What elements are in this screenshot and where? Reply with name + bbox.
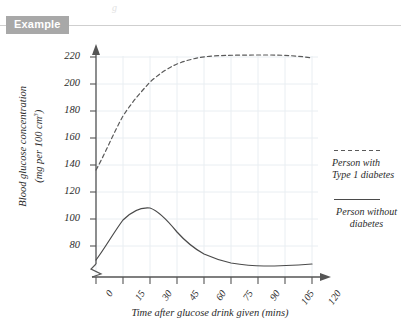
- y-tick-label-80: 80: [52, 239, 80, 250]
- y-axis-title-superscript: 3: [31, 113, 39, 117]
- legend-label-line2: Type 1 diabetes: [332, 169, 401, 181]
- legend-swatch-dashed: [334, 146, 382, 155]
- y-tick-label-220: 220: [52, 50, 80, 61]
- y-tick-label-200: 200: [52, 77, 80, 88]
- example-chart-page: g Example: [0, 0, 401, 331]
- y-tick-label-180: 180: [52, 104, 80, 115]
- y-axis-title: Blood glucose concentration (mg per 100 …: [17, 51, 46, 241]
- y-tick-label-160: 160: [52, 131, 80, 142]
- legend-label-no-diabetes: Person without diabetes: [332, 206, 401, 230]
- legend-swatch-solid: [334, 195, 382, 204]
- y-tick-label-140: 140: [52, 158, 80, 169]
- legend-entry-type1-diabetes: Person with Type 1 diabetes: [332, 146, 401, 181]
- x-axis-title: Time after glucose drink given (mins): [80, 307, 340, 318]
- y-tick-label-120: 120: [52, 185, 80, 196]
- example-banner: g Example: [0, 16, 401, 36]
- legend-label-line2: diabetes: [332, 218, 401, 230]
- y-tick-marks: [90, 57, 96, 246]
- legend-label-line1: Person without: [332, 206, 401, 218]
- y-axis-title-line2: (mg per 100 cm3): [29, 51, 45, 241]
- clipped-glyph: g: [112, 2, 117, 13]
- y-axis-arrow: [92, 44, 100, 55]
- example-badge: Example: [6, 16, 69, 34]
- x-axis-arrow: [320, 273, 331, 281]
- x-tick-marks: [96, 277, 312, 284]
- y-tick-label-100: 100: [52, 212, 80, 223]
- y-axis-title-line1: Blood glucose concentration: [17, 86, 28, 207]
- chart-legend: Person with Type 1 diabetes Person witho…: [332, 146, 401, 244]
- legend-entry-no-diabetes: Person without diabetes: [332, 195, 401, 230]
- grid-lines: [96, 56, 318, 277]
- legend-label-line1: Person with: [332, 157, 401, 169]
- blood-glucose-chart: 220 200 180 160 140 120 100 80 0 15 30 4…: [0, 36, 401, 331]
- legend-label-type1-diabetes: Person with Type 1 diabetes: [332, 157, 401, 181]
